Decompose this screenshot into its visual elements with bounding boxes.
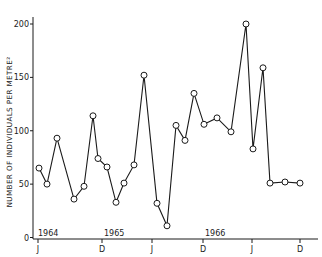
y-tick-label: 50 <box>19 180 29 189</box>
data-point-marker <box>90 113 96 119</box>
data-point-marker <box>113 199 119 205</box>
data-point-marker <box>182 137 188 143</box>
y-tick-label: 100 <box>14 127 29 136</box>
data-point-marker <box>104 164 110 170</box>
data-point-marker <box>282 179 288 185</box>
y-tick-group: 050100150200 <box>14 20 33 243</box>
data-point-marker <box>243 21 249 27</box>
data-point-marker <box>36 165 42 171</box>
population-line-chart: 050100150200 NUMBER OF INDIVIDUALS PER M… <box>0 0 322 257</box>
x-tick-label: D <box>297 245 303 254</box>
data-point-marker <box>164 223 170 229</box>
data-point-marker <box>214 115 220 121</box>
x-tick-label: D <box>99 245 105 254</box>
data-point-marker <box>54 135 60 141</box>
y-axis: 050100150200 NUMBER OF INDIVIDUALS PER M… <box>5 17 33 243</box>
x-tick-label: J <box>250 245 253 254</box>
data-point-marker <box>297 180 303 186</box>
x-tick-label: D <box>200 245 206 254</box>
year-label: 1965 <box>104 229 124 238</box>
x-tick-group: JDJDJD <box>36 239 303 254</box>
data-point-marker <box>131 162 137 168</box>
data-point-marker <box>191 90 197 96</box>
data-point-marker <box>260 65 266 71</box>
year-label: 1966 <box>205 229 225 238</box>
data-point-marker <box>71 196 77 202</box>
data-point-marker <box>228 129 234 135</box>
data-series <box>36 21 303 229</box>
data-point-marker <box>250 146 256 152</box>
data-point-marker <box>173 122 179 128</box>
year-label-group: 196419651966 <box>38 229 225 238</box>
y-tick-label: 150 <box>14 73 29 82</box>
data-point-marker <box>141 72 147 78</box>
data-point-marker <box>121 180 127 186</box>
x-axis: JDJDJD 196419651966 <box>33 229 318 254</box>
series-line <box>39 24 300 226</box>
year-label: 1964 <box>38 229 58 238</box>
x-tick-label: J <box>36 245 39 254</box>
data-point-marker <box>44 181 50 187</box>
x-tick-label: J <box>150 245 153 254</box>
data-point-marker <box>95 156 101 162</box>
data-point-marker <box>201 121 207 127</box>
data-point-marker <box>267 180 273 186</box>
y-axis-title: NUMBER OF INDIVIDUALS PER METRE² <box>5 57 14 208</box>
y-tick-label: 0 <box>24 234 29 243</box>
data-point-marker <box>154 200 160 206</box>
y-tick-label: 200 <box>14 20 29 29</box>
data-point-marker <box>81 183 87 189</box>
